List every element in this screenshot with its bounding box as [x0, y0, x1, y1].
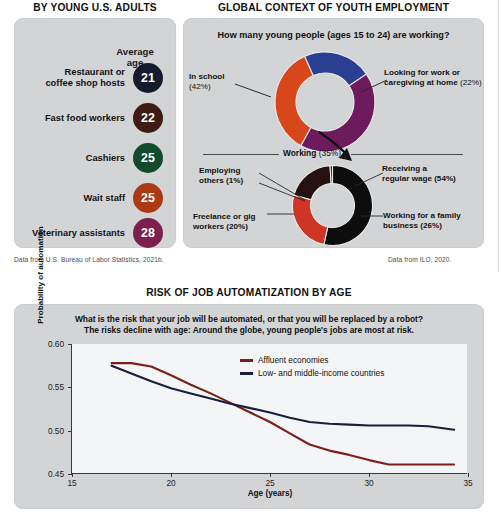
job-row: Wait staff 25	[14, 183, 176, 213]
receiving-label-line2: regular wage (54%)	[382, 174, 456, 183]
looking-label-line2: caregiving at home	[384, 78, 458, 87]
leader-line-freelance	[267, 210, 297, 220]
chart-subtitle: What is the risk that your job will be a…	[29, 314, 469, 336]
job-row: Restaurant or coffee shop hosts 21	[14, 63, 176, 93]
working-divider-left	[203, 154, 279, 155]
job-label-line1: Restaurant or	[65, 67, 125, 77]
working-divider-right	[351, 154, 463, 155]
chart-subtitle-line2: The risks decline with age: Around the g…	[84, 325, 414, 335]
job-label: Restaurant or coffee shop hosts	[45, 67, 125, 88]
y-tick-label: 0.45	[48, 469, 64, 479]
looking-pct: (22%)	[460, 78, 482, 87]
x-tick-label: 25	[265, 478, 274, 488]
family-label-line1: Working for a family	[383, 211, 461, 220]
job-label: Wait staff	[84, 193, 126, 204]
left-panel-title: BY YOUNG U.S. ADULTS	[14, 2, 176, 13]
slice-label-receiving-wage: Receiving a regular wage (54%)	[382, 164, 456, 183]
job-label-line2: coffee shop hosts	[45, 78, 125, 88]
bottom-panel-title: RISK OF JOB AUTOMATIZATION BY AGE	[14, 287, 484, 298]
chart-legend: Affluent economies Low- and middle-incom…	[240, 354, 384, 380]
x-axis-label: Age (years)	[72, 489, 468, 498]
bottom-panel-card: What is the risk that your job will be a…	[14, 304, 484, 509]
looking-label-line1: Looking for work or	[384, 68, 460, 77]
working-label: Working	[283, 148, 316, 158]
right-panel-source: Data from ILO, 2020.	[388, 256, 452, 263]
employing-label-line1: Employing	[199, 166, 240, 175]
job-label: Veterinary assistants	[32, 228, 125, 239]
slice-label-employing-others: Employing others (1%)	[199, 166, 243, 185]
legend-label-affluent: Affluent economies	[258, 354, 328, 367]
age-bubble: 22	[133, 103, 163, 133]
working-arrow-icon	[317, 130, 361, 164]
y-tick-label: 0.50	[48, 426, 64, 436]
working-pct: (35%)	[319, 148, 341, 158]
slice-label-freelance: Freelance or gig workers (20%)	[193, 212, 256, 231]
leader-line-in-school	[227, 80, 273, 100]
x-tick-label: 15	[67, 478, 76, 488]
freelance-label-line1: Freelance or gig	[193, 212, 256, 221]
x-tick-mark	[468, 473, 469, 477]
x-tick-label: 35	[463, 478, 472, 488]
age-bubble: 25	[133, 143, 163, 173]
age-bubble: 21	[133, 63, 163, 93]
right-panel-title: GLOBAL CONTEXT OF YOUTH EMPLOYMENT	[183, 2, 484, 13]
job-label: Cashiers	[86, 153, 125, 164]
employing-label-line2: others (1%)	[199, 176, 243, 185]
legend-label-low-middle: Low- and middle-income countries	[258, 367, 384, 380]
infographic-page: BY YOUNG U.S. ADULTS Average age Restaur…	[0, 0, 500, 521]
slice-label-looking-for-work: Looking for work or caregiving at home (…	[384, 68, 484, 87]
average-age-header-line1: Average	[116, 46, 154, 57]
slice-label-in-school: In school (42%)	[189, 72, 225, 91]
freelance-label-line2: workers (20%)	[193, 222, 248, 231]
slice-label-family-business: Working for a family business (26%)	[383, 211, 461, 230]
y-axis-label: Probability of automation	[36, 210, 45, 340]
working-connector-label: Working (35%)	[283, 148, 341, 158]
chart-subtitle-line1: What is the risk that your job will be a…	[75, 314, 423, 324]
leader-line-family	[361, 211, 385, 223]
in-school-label: In school	[189, 72, 225, 81]
leader-line-looking	[359, 76, 389, 94]
x-tick-label: 30	[364, 478, 373, 488]
right-panel-question: How many young people (ages 15 to 24) ar…	[183, 30, 484, 40]
legend-item-affluent: Affluent economies	[240, 354, 384, 367]
job-label: Fast food workers	[45, 113, 125, 124]
y-tick-label: 0.55	[48, 382, 64, 392]
family-label-line2: business (26%)	[383, 221, 442, 230]
leader-line-receiving	[353, 170, 385, 188]
leader-line-employing	[259, 170, 309, 204]
right-panel-card: How many young people (ages 15 to 24) ar…	[183, 18, 484, 248]
legend-swatch-affluent	[240, 359, 253, 362]
in-school-pct: (42%)	[189, 82, 211, 91]
donut-slice	[275, 56, 313, 146]
job-row: Fast food workers 22	[14, 103, 176, 133]
y-tick-label: 0.60	[48, 339, 64, 349]
receiving-label-line1: Receiving a	[382, 164, 427, 173]
x-tick-label: 20	[166, 478, 175, 488]
line-chart-plot-area: Probability of automation 0.450.500.550.…	[71, 344, 467, 474]
legend-item-low-middle: Low- and middle-income countries	[240, 367, 384, 380]
age-bubble: 28	[133, 218, 163, 248]
age-bubble: 25	[133, 183, 163, 213]
job-row: Cashiers 25	[14, 143, 176, 173]
legend-swatch-low-middle	[240, 372, 253, 375]
page-edge-rule	[498, 0, 499, 272]
